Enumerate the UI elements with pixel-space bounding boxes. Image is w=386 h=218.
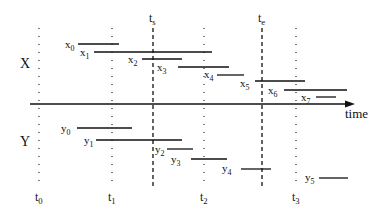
time-axis-label: time — [345, 106, 368, 121]
time-mark-label-t0: t0 — [35, 190, 43, 206]
series-label-x: X — [20, 56, 30, 71]
series-label-y: Y — [20, 134, 30, 149]
series-labels: XY — [20, 56, 30, 149]
y-label-2: y2 — [155, 143, 165, 158]
x-label-6: x6 — [268, 84, 278, 99]
y-label-1: y1 — [84, 134, 94, 149]
time-mark-label-te: te — [258, 11, 265, 27]
timeline-diagram: t0t1tst2tet3 time XY x0x1x2x3x4x5x6x7 y0… — [0, 0, 386, 218]
time-marks: t0t1tst2tet3 — [35, 11, 300, 206]
y-intervals: y0y1y2y3y4y5 — [61, 122, 348, 186]
y-label-4: y4 — [222, 162, 232, 177]
x-label-3: x3 — [157, 61, 167, 76]
y-label-5: y5 — [305, 171, 315, 186]
x-label-2: x2 — [128, 53, 138, 68]
x-label-5: x5 — [240, 77, 250, 92]
time-axis: time — [30, 101, 368, 122]
time-mark-label-ts: ts — [149, 11, 156, 27]
x-label-4: x4 — [204, 68, 214, 83]
y-label-0: y0 — [61, 122, 71, 137]
x-intervals: x0x1x2x3x4x5x6x7 — [65, 38, 347, 106]
time-mark-label-t2: t2 — [200, 190, 208, 206]
x-label-0: x0 — [65, 38, 75, 53]
time-mark-label-t1: t1 — [108, 190, 116, 206]
y-label-3: y3 — [171, 153, 181, 168]
x-label-1: x1 — [80, 46, 90, 61]
time-mark-label-t3: t3 — [292, 190, 300, 206]
